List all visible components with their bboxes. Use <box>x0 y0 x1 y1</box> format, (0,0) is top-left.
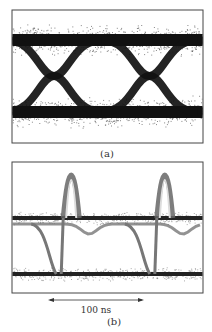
low-level-noise-dot <box>14 105 15 106</box>
lower-level-noise-dot <box>124 276 125 277</box>
upper-level-noise-dot <box>19 220 20 221</box>
low-level-noise-dot <box>192 119 193 120</box>
low-level-noise-dot <box>113 103 114 104</box>
lower-level-noise-dot <box>107 278 108 279</box>
upper-level-noise-dot <box>136 213 137 214</box>
low-level-noise-dot <box>191 101 192 102</box>
lower-level-noise-dot <box>53 280 54 281</box>
high-level-noise-dot <box>93 50 94 51</box>
lower-level-noise-dot <box>88 270 89 271</box>
lower-level-noise-dot <box>131 268 132 269</box>
upper-level-noise-dot <box>80 222 81 223</box>
lower-level-noise-dot <box>120 268 121 269</box>
high-level-noise-dot <box>139 53 140 54</box>
low-level-noise-dot <box>19 100 20 101</box>
upper-level-noise-dot <box>94 214 95 215</box>
high-level-noise-dot <box>86 33 87 34</box>
high-level-noise-dot <box>56 47 57 48</box>
lower-level-noise-dot <box>190 276 191 277</box>
high-level-noise-dot <box>92 28 93 29</box>
upper-level-noise-dot <box>83 214 84 215</box>
low-level-noise-dot <box>188 100 189 101</box>
low-level-noise-dot <box>112 122 113 123</box>
high-level-noise-dot <box>191 51 192 52</box>
upper-level-noise-dot <box>180 220 181 221</box>
high-level-noise-dot <box>79 32 80 33</box>
high-level-noise-dot <box>156 32 157 33</box>
low-level-noise-dot <box>60 103 61 104</box>
lower-level-noise-dot <box>140 268 141 269</box>
high-level-noise-dot <box>187 25 188 26</box>
lower-level-noise-dot <box>105 270 106 271</box>
low-level-noise-dot <box>170 118 171 119</box>
high-level-noise-dot <box>199 54 200 55</box>
lower-level-noise-dot <box>81 280 82 281</box>
lower-level-noise-dot <box>20 276 21 277</box>
low-level-noise-dot <box>116 120 117 121</box>
lower-level-noise-dot <box>123 270 124 271</box>
lower-level-noise-dot <box>50 279 51 280</box>
lower-level-noise-dot <box>176 277 177 278</box>
low-level-noise-dot <box>146 119 147 120</box>
upper-level-noise-dot <box>162 214 163 215</box>
lower-level-noise-dot <box>43 270 44 271</box>
high-level-noise-dot <box>166 48 167 49</box>
upper-level-noise-dot <box>186 215 187 216</box>
lower-level-noise-dot <box>93 277 94 278</box>
low-level-noise-dot <box>72 120 73 121</box>
upper-level-noise-dot <box>176 221 177 222</box>
upper-level-noise-dot <box>57 215 58 216</box>
lower-level-noise-dot <box>111 270 112 271</box>
panel-a: (a) <box>0 10 212 159</box>
lower-level-noise-dot <box>144 270 145 271</box>
rising-edge <box>155 218 157 274</box>
low-level-noise-dot <box>182 100 183 101</box>
low-level-noise-dot <box>166 119 167 120</box>
lower-level-noise-dot <box>88 280 89 281</box>
low-level-noise-dot <box>172 118 173 119</box>
lower-level-noise-dot <box>191 269 192 270</box>
high-level-noise-dot <box>96 33 97 34</box>
upper-level-noise-dot <box>15 215 16 216</box>
upper-level-noise-dot <box>149 214 150 215</box>
high-level-noise-dot <box>181 31 182 32</box>
lower-level-noise-dot <box>112 276 113 277</box>
low-level-noise-dot <box>147 103 148 104</box>
high-level-noise-dot <box>144 49 145 50</box>
high-level-noise-dot <box>102 32 103 33</box>
high-level-noise-dot <box>46 30 47 31</box>
low-level-noise-dot <box>144 101 145 102</box>
lower-level-noise-dot <box>127 270 128 271</box>
lower-level-trace <box>12 272 203 276</box>
high-level-noise-dot <box>154 32 155 33</box>
lower-level-noise-dot <box>195 279 196 280</box>
high-level-noise-dot <box>192 55 193 56</box>
lower-level-noise-dot <box>168 277 169 278</box>
upper-level-noise-dot <box>71 222 72 223</box>
rising-transition <box>0 40 6 112</box>
lower-level-noise-dot <box>29 276 30 277</box>
high-level-noise-dot <box>180 32 181 33</box>
high-level-noise-dot <box>42 33 43 34</box>
high-level-noise-dot <box>19 32 20 33</box>
high-level-noise-dot <box>26 33 27 34</box>
low-level-noise-dot <box>28 119 29 120</box>
low-level-noise-dot <box>119 99 120 100</box>
upper-level-noise-dot <box>106 215 107 216</box>
high-level-noise-dot <box>96 51 97 52</box>
high-level-noise-dot <box>115 49 116 50</box>
high-level-noise-dot <box>39 47 40 48</box>
low-level-noise-dot <box>159 121 160 122</box>
upper-level-noise-dot <box>88 221 89 222</box>
low-level-noise-dot <box>194 100 195 101</box>
high-level-noise-dot <box>138 25 139 26</box>
upper-level-noise-dot <box>190 220 191 221</box>
low-level-noise-dot <box>137 105 138 106</box>
lower-level-noise-dot <box>166 279 167 280</box>
low-level-noise-dot <box>56 125 57 126</box>
low-level-noise-dot <box>128 120 129 121</box>
low-level-noise-dot <box>91 103 92 104</box>
lower-level-noise-dot <box>172 279 173 280</box>
high-level-noise-dot <box>34 28 35 29</box>
high-level-noise-dot <box>121 28 122 29</box>
